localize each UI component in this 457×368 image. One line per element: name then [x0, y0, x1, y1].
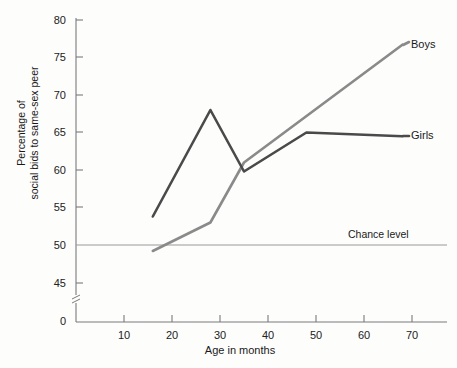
x-tick-label-50: 50 [303, 330, 329, 341]
y-tick-label-0: 0 [40, 316, 66, 327]
x-tick-label-20: 20 [159, 330, 185, 341]
y-tick-label-55: 55 [40, 202, 66, 213]
chart-plot-area [0, 0, 457, 368]
x-tick-label-40: 40 [255, 330, 281, 341]
line-chart: 80 75 70 65 60 55 50 45 0 10 20 30 40 50… [0, 0, 457, 368]
x-tick-label-30: 30 [207, 330, 233, 341]
series-label-boys: Boys [411, 38, 435, 50]
y-tick-label-75: 75 [40, 52, 66, 63]
y-axis-break-icon [72, 295, 80, 303]
y-axis-title-line2: social bids to same-sex peer [28, 53, 41, 213]
y-tick-label-70: 70 [40, 90, 66, 101]
y-tick-label-80: 80 [40, 15, 66, 26]
y-tick-label-45: 45 [40, 278, 66, 289]
chance-level-label: Chance level [348, 228, 409, 240]
x-tick-label-10: 10 [111, 330, 137, 341]
series-label-girls: Girls [411, 129, 434, 141]
y-axis-title-line1: Percentage of [15, 53, 28, 213]
x-tick-label-70: 70 [399, 330, 425, 341]
y-tick-label-60: 60 [40, 165, 66, 176]
y-tick-label-50: 50 [40, 240, 66, 251]
x-tick-label-60: 60 [351, 330, 377, 341]
y-tick-marks [76, 20, 83, 283]
series-line-girls [153, 110, 403, 217]
y-tick-label-65: 65 [40, 127, 66, 138]
series-leader-boys [403, 42, 409, 45]
x-tick-marks [124, 315, 412, 322]
x-axis-title: Age in months [170, 344, 310, 356]
y-axis-title: Percentage of social bids to same-sex pe… [15, 53, 41, 213]
